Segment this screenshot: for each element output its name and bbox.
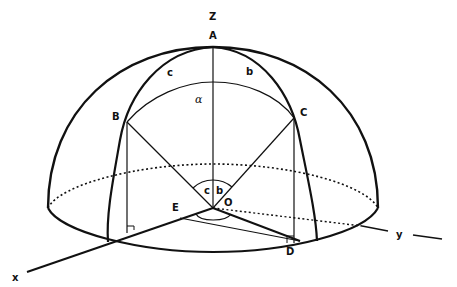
spherical-triangle-diagram: Z A c b α B C c b O E D x y <box>0 0 457 287</box>
angle-arc-bottom <box>196 214 231 220</box>
label-e: E <box>172 202 179 213</box>
label-y: y <box>396 229 403 240</box>
label-a: A <box>209 30 217 41</box>
label-z: Z <box>209 11 216 22</box>
label-x: x <box>12 272 19 283</box>
label-side-c: c <box>167 67 173 78</box>
equator-front <box>48 208 378 252</box>
angle-arc-c <box>193 180 213 188</box>
y-axis-solid-2 <box>413 235 442 239</box>
great-circle-ac <box>213 47 317 241</box>
line-od <box>213 208 300 241</box>
label-o: O <box>224 197 233 208</box>
line-ed <box>180 218 300 241</box>
label-angle-b: b <box>216 185 223 196</box>
label-c: C <box>300 107 307 118</box>
label-side-b: b <box>246 66 253 77</box>
radius-oc <box>213 118 294 208</box>
right-angle-b <box>127 226 134 230</box>
y-axis-solid-1 <box>362 226 388 231</box>
label-alpha: α <box>195 93 203 106</box>
label-angle-c: c <box>204 185 210 196</box>
arc-bc <box>127 82 294 122</box>
label-b: B <box>112 111 120 122</box>
label-d: D <box>286 246 294 257</box>
